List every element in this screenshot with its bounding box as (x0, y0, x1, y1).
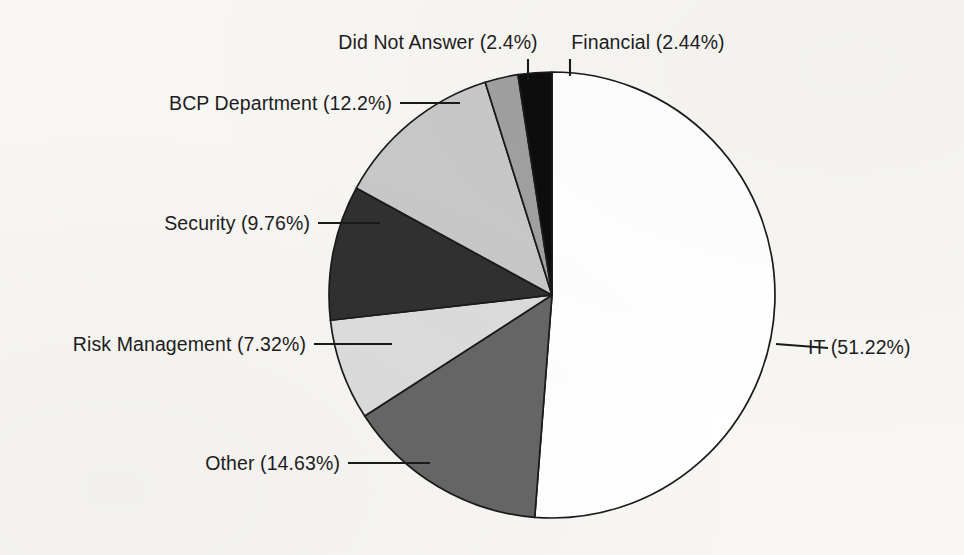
pie-label-other: Other (14.63%) (205, 452, 340, 474)
pie-label-financial: Financial (2.44%) (571, 31, 724, 53)
pie-label-bcp-department: BCP Department (12.2%) (169, 92, 392, 114)
pie-label-security: Security (9.76%) (164, 212, 310, 234)
pie-slices-group (329, 72, 775, 518)
pie-chart-canvas: IT (51.22%)Other (14.63%)Risk Management… (0, 0, 964, 555)
pie-chart-figure: IT (51.22%)Other (14.63%)Risk Management… (0, 0, 964, 555)
pie-label-risk-management: Risk Management (7.32%) (73, 333, 306, 355)
pie-label-did-not-answer: Did Not Answer (2.4%) (338, 31, 537, 53)
pie-slice-it[interactable] (535, 72, 775, 518)
pie-label-it: IT (51.22%) (808, 336, 911, 358)
